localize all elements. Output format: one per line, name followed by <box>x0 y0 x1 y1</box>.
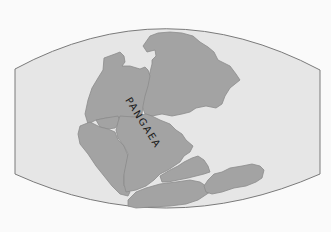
pangaea-map-figure: PANGAEA <box>0 0 331 232</box>
world-map: PANGAEA <box>0 0 331 232</box>
